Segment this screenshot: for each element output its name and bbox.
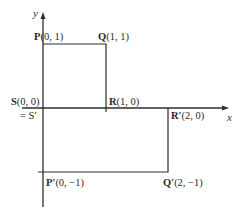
point-letter: P′ (46, 177, 55, 188)
original-square (43, 44, 106, 112)
point-letter: Q (98, 31, 106, 42)
point-label-r: R(1, 0) (109, 97, 139, 108)
point-label-s: S(0, 0) (11, 97, 40, 108)
x-axis-arrow-icon (222, 106, 229, 111)
point-label-p-prime: P′(0, −1) (46, 178, 84, 189)
y-axis-label: y (33, 8, 38, 19)
point-coords: (0, −1) (55, 177, 84, 188)
point-letter: R (109, 96, 117, 107)
transformed-rectangle (38, 108, 168, 172)
point-label-q: Q(1, 1) (98, 32, 129, 43)
point-letter: R′ (171, 110, 182, 121)
point-letter: = S′ (20, 110, 37, 121)
x-axis-label: x (227, 112, 232, 123)
point-letter: Q′ (163, 177, 174, 188)
point-label-s-prime: = S′ (20, 111, 37, 122)
point-coords: (0, 1) (40, 31, 63, 42)
point-coords: (2, 0) (182, 110, 205, 121)
point-label-r-prime: R′(2, 0) (171, 111, 204, 122)
point-coords: (1, 0) (117, 96, 140, 107)
y-axis-arrow-icon (41, 12, 46, 19)
point-coords: (2, −1) (174, 177, 203, 188)
point-label-q-prime: Q′(2, −1) (163, 178, 203, 189)
point-coords: (0, 0) (17, 96, 40, 107)
point-coords: (1, 1) (106, 31, 129, 42)
point-label-p: P(0, 1) (34, 32, 63, 43)
